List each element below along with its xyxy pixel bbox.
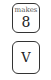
key-v[interactable]: V bbox=[12, 41, 40, 74]
key-makes-8[interactable]: makes 8 bbox=[12, 3, 40, 33]
key-caption: makes bbox=[13, 6, 39, 14]
key-label: V bbox=[13, 50, 39, 65]
key-label: 8 bbox=[13, 15, 39, 30]
